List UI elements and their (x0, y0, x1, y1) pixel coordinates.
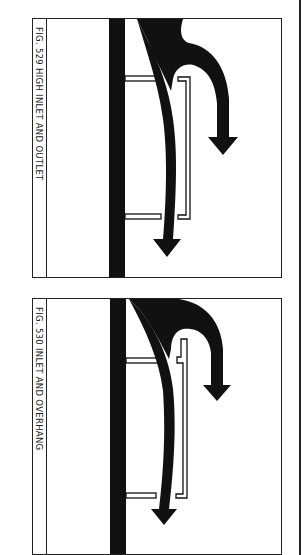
lower-fin (126, 493, 156, 498)
wall (109, 19, 125, 277)
lower-fin (125, 214, 161, 219)
figure-530-panel: FIG. 530 INLET AND OVERHANG (32, 298, 282, 555)
outlet-airflow-arrow (129, 299, 231, 401)
stepped-panel (176, 339, 187, 498)
page-edge-rule (299, 0, 301, 555)
figure-530-drawing (33, 299, 281, 554)
figure-529-drawing (33, 19, 281, 277)
wall (110, 299, 126, 554)
figure-529-panel: FIG. 529 HIGH INLET AND OUTLET (32, 18, 282, 278)
vented-panel (178, 77, 190, 219)
